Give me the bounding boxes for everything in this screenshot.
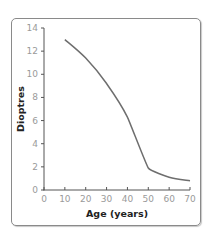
x-tick-label: 30 [101, 194, 113, 204]
y-axis-title: Dioptres [15, 86, 26, 132]
y-tick-label: 8 [32, 92, 38, 102]
y-tick-label: 0 [32, 185, 38, 195]
line-chart: 02468101214010203040506070 Age (years) D… [0, 0, 210, 242]
x-tick-label: 70 [184, 194, 196, 204]
x-tick-label: 0 [41, 194, 47, 204]
x-tick-label: 60 [163, 194, 175, 204]
x-tick-label: 40 [122, 194, 134, 204]
plot-area [65, 40, 190, 181]
series-line [65, 40, 190, 181]
x-tick-label: 50 [143, 194, 155, 204]
y-tick-label: 4 [32, 139, 38, 149]
y-tick-label: 2 [32, 162, 38, 172]
y-tick-label: 12 [27, 46, 38, 56]
x-tick-label: 10 [59, 194, 71, 204]
y-tick-label: 10 [27, 69, 39, 79]
y-tick-label: 14 [27, 23, 39, 33]
x-axis-title: Age (years) [86, 208, 148, 219]
axes: 02468101214010203040506070 [27, 23, 196, 204]
x-tick-label: 20 [80, 194, 92, 204]
y-tick-label: 6 [32, 116, 38, 126]
